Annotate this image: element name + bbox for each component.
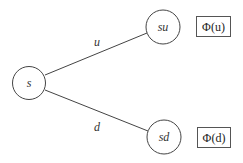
payoff-up-label: Φ(u) bbox=[202, 20, 225, 34]
binomial-tree-diagram: u d s su sd Φ(u) Φ(d) bbox=[0, 0, 243, 163]
node-sd-label: sd bbox=[159, 130, 171, 144]
edge-label-down: d bbox=[94, 120, 101, 134]
edge-label-up: u bbox=[94, 35, 100, 49]
node-s-label: s bbox=[27, 76, 32, 90]
node-su-label: su bbox=[158, 20, 169, 34]
payoff-down-label: Φ(d) bbox=[203, 131, 226, 145]
